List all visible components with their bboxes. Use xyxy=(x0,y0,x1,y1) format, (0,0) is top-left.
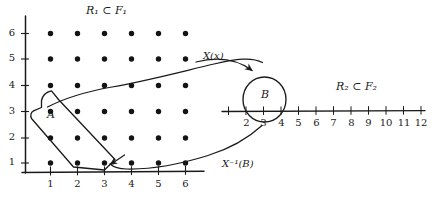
numline-tick-5: 5 xyxy=(292,117,305,128)
domain-set-label: R₁ ⊂ F₁ xyxy=(86,4,127,17)
mapping-function-label: X(x) xyxy=(203,50,224,61)
figure-canvas xyxy=(0,0,432,205)
y-tick-4: 4 xyxy=(6,79,18,90)
y-tick-1: 1 xyxy=(6,156,18,167)
x-tick-5: 5 xyxy=(152,178,165,189)
preimage-region-curve xyxy=(48,59,263,169)
numline-tick-4: 4 xyxy=(275,117,288,128)
sample-space-axes xyxy=(21,16,204,176)
x-tick-3: 3 xyxy=(98,178,111,189)
figure-random-variable-mapping: R₁ ⊂ F₁ R₂ ⊂ F₂ X(x) X⁻¹(B) A B 6 5 4 3 … xyxy=(0,0,432,205)
set-b-label: B xyxy=(261,88,269,101)
numline-tick-12: 12 xyxy=(413,117,429,128)
y-tick-6: 6 xyxy=(6,27,18,38)
x-tick-4: 4 xyxy=(125,178,138,189)
numline-tick-11: 11 xyxy=(396,117,412,128)
numline-tick-2: 2 xyxy=(240,117,253,128)
numline-tick-9: 9 xyxy=(362,117,375,128)
number-line-axis xyxy=(222,106,425,115)
range-set-label: R₂ ⊂ F₂ xyxy=(336,80,377,93)
set-a-label: A xyxy=(47,108,55,121)
x-tick-2: 2 xyxy=(71,178,84,189)
numline-tick-10: 10 xyxy=(378,117,394,128)
set-a-region xyxy=(31,91,115,170)
preimage-label: X⁻¹(B) xyxy=(222,158,254,169)
y-tick-2: 2 xyxy=(6,131,18,142)
x-tick-6: 6 xyxy=(179,178,192,189)
y-tick-3: 3 xyxy=(6,105,18,116)
numline-tick-7: 7 xyxy=(327,117,340,128)
numline-tick-6: 6 xyxy=(310,117,323,128)
y-tick-5: 5 xyxy=(6,52,18,63)
numline-tick-3: 3 xyxy=(257,117,270,128)
x-tick-1: 1 xyxy=(44,178,57,189)
numline-tick-8: 8 xyxy=(345,117,358,128)
